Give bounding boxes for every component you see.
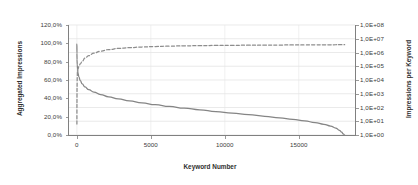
- y-axis-right-tick-mark: [356, 94, 359, 95]
- x-axis-line: [68, 135, 356, 136]
- y-axis-left-tick-label: 80,0%: [24, 58, 62, 65]
- y-axis-right-tick-label: 1,0E+04: [360, 76, 402, 83]
- x-axis-tick-label: 15000: [279, 141, 319, 148]
- y-axis-right-tick-mark: [356, 66, 359, 67]
- x-axis-title: Keyword Number: [184, 163, 237, 170]
- x-axis-tick-mark: [299, 136, 300, 139]
- x-axis-tick-label: 5000: [131, 141, 171, 148]
- y-axis-right-tick-label: 1,0E+00: [360, 131, 402, 138]
- y-axis-left-tick-label: 0,0%: [24, 131, 62, 138]
- x-axis-tick-label: 0: [57, 141, 97, 148]
- series-line-2: [77, 45, 345, 124]
- y-axis-left-tick-label: 60,0%: [24, 76, 62, 83]
- y-axis-right-tick-label: 1,0E+02: [360, 104, 402, 111]
- y-axis-right-title: Impressions per Keyword: [405, 40, 412, 118]
- gridlines: [68, 25, 355, 135]
- y-axis-left-tick-mark: [66, 117, 69, 118]
- y-axis-right-tick-label: 1,0E+05: [360, 62, 402, 69]
- y-axis-right-tick-label: 1,0E+07: [360, 35, 402, 42]
- chart-container: 0,0%20,0%40,0%60,0%80,0%100,0%120,0% 1,0…: [0, 0, 418, 185]
- y-axis-left-tick-mark: [66, 43, 69, 44]
- y-axis-right-tick-label: 1,0E+01: [360, 117, 402, 124]
- y-axis-right-tick-label: 1,0E+03: [360, 90, 402, 97]
- y-axis-left-tick-mark: [66, 98, 69, 99]
- y-axis-right-tick-label: 1,0E+08: [360, 21, 402, 28]
- plot-area: [68, 25, 355, 135]
- y-axis-left-tick-mark: [66, 25, 69, 26]
- plot-svg: [68, 25, 355, 135]
- x-axis-tick-label: 10000: [205, 141, 245, 148]
- x-axis-tick-mark: [225, 136, 226, 139]
- y-axis-right-tick-mark: [356, 53, 359, 54]
- y-axis-left-title: Aggregated Impressions: [16, 41, 23, 116]
- y-axis-right-tick-mark: [356, 108, 359, 109]
- y-axis-left-tick-label: 100,0%: [24, 39, 62, 46]
- x-axis-tick-mark: [77, 136, 78, 139]
- y-axis-right-tick-label: 1,0E+06: [360, 49, 402, 56]
- x-axis-tick-mark: [151, 136, 152, 139]
- y-axis-right-tick-mark: [356, 135, 359, 136]
- y-axis-right-tick-mark: [356, 25, 359, 26]
- y-axis-left-tick-label: 20,0%: [24, 113, 62, 120]
- y-axis-left-tick-label: 120,0%: [24, 21, 62, 28]
- y-axis-left-line: [68, 25, 69, 136]
- y-axis-left-tick-mark: [66, 80, 69, 81]
- y-axis-right-tick-mark: [356, 39, 359, 40]
- y-axis-right-tick-mark: [356, 121, 359, 122]
- y-axis-left-tick-label: 40,0%: [24, 94, 62, 101]
- y-axis-right-tick-mark: [356, 80, 359, 81]
- y-axis-left-tick-mark: [66, 62, 69, 63]
- y-axis-left-tick-mark: [66, 135, 69, 136]
